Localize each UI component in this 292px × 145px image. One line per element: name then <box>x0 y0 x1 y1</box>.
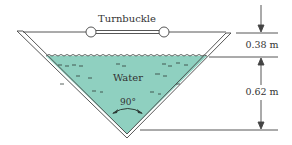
water-surface <box>46 55 207 57</box>
water-region <box>46 56 207 134</box>
angle-label: 90° <box>120 97 136 107</box>
water-label: Water <box>113 72 143 83</box>
turnbuckle <box>23 27 226 37</box>
freeboard-dimension: 0.38 m <box>245 39 278 50</box>
turnbuckle-label: Turnbuckle <box>98 13 156 24</box>
water-depth-dimension: 0.62 m <box>245 86 278 97</box>
trough-diagram: Turnbuckle Water 90° 0.38 m 0.62 m <box>0 0 292 145</box>
